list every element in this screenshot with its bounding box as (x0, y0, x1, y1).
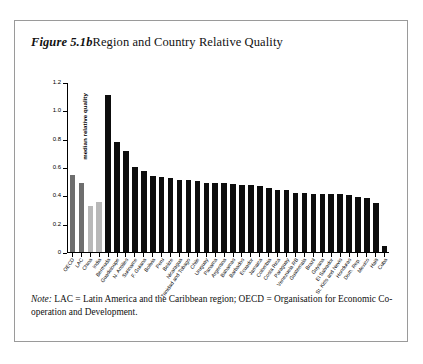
bar-slot (77, 83, 86, 252)
bar-slot (336, 83, 345, 252)
bar-slot (157, 83, 166, 252)
bar-slot (318, 83, 327, 252)
y-axis-tick-label: 0 (58, 249, 61, 255)
bar (79, 183, 85, 252)
bar-slot (273, 83, 282, 252)
figure-note: Note: LAC = Latin America and the Caribb… (31, 293, 393, 319)
bar (141, 171, 147, 252)
bar (123, 151, 129, 252)
y-axis-tick-label: 0.6 (53, 164, 61, 170)
y-axis-tick-label: 0.4 (53, 192, 61, 198)
bar-slot (300, 83, 309, 252)
figure-title-text: Region and Country Relative Quality (93, 35, 283, 49)
figure-number: Figure 5.1b (31, 35, 93, 49)
bar-slot (291, 83, 300, 252)
bar (159, 177, 165, 252)
y-axis-tick-label: 0.2 (53, 221, 61, 227)
bar-slot (113, 83, 122, 252)
bar (114, 142, 120, 252)
bar (105, 95, 111, 252)
bar-slot (380, 83, 389, 252)
bar-slot (246, 83, 255, 252)
bar (70, 175, 76, 252)
bar-slot (104, 83, 113, 252)
note-text: LAC = Latin America and the Caribbean re… (31, 294, 392, 317)
bar-slot (327, 83, 336, 252)
bar-slot (255, 83, 264, 252)
y-axis-tick: 0.6 (63, 168, 67, 169)
bar-slot (148, 83, 157, 252)
y-axis-tick: 0.2 (63, 225, 67, 226)
y-axis-tick-label: 1.0 (53, 107, 61, 113)
y-axis-tick: 0.4 (63, 196, 67, 197)
bar-slot (220, 83, 229, 252)
bar-slot (229, 83, 238, 252)
bar-slot (122, 83, 131, 252)
bar (88, 206, 94, 252)
bar (96, 202, 102, 252)
bar-slot (345, 83, 354, 252)
bar-slot (86, 83, 95, 252)
y-axis-tick: 1.2 (63, 83, 67, 84)
bar (177, 180, 183, 252)
bar-slot (95, 83, 104, 252)
bar-slot (238, 83, 247, 252)
bar-slot (309, 83, 318, 252)
bar-slot (282, 83, 291, 252)
bar-slot (68, 83, 77, 252)
bar-series (68, 83, 389, 252)
bar-slot (264, 83, 273, 252)
bar-slot (166, 83, 175, 252)
figure-title: Figure 5.1bRegion and Country Relative Q… (31, 35, 283, 50)
bar-slot (139, 83, 148, 252)
y-axis-tick: 0 (63, 253, 67, 254)
bar-slot (175, 83, 184, 252)
bar (168, 178, 174, 252)
bar-slot (130, 83, 139, 252)
y-axis-tick: 0.8 (63, 140, 67, 141)
chart-plot-area: median relative quality 00.20.40.60.81.0… (67, 83, 389, 253)
y-axis-tick: 1.0 (63, 111, 67, 112)
bar-slot (193, 83, 202, 252)
y-axis-tick-label: 0.8 (53, 136, 61, 142)
y-axis-tick-label: 1.2 (53, 79, 61, 85)
bar-slot (371, 83, 380, 252)
note-label: Note: (31, 294, 52, 304)
figure-panel: Figure 5.1bRegion and Country Relative Q… (14, 20, 408, 342)
bar-slot (184, 83, 193, 252)
